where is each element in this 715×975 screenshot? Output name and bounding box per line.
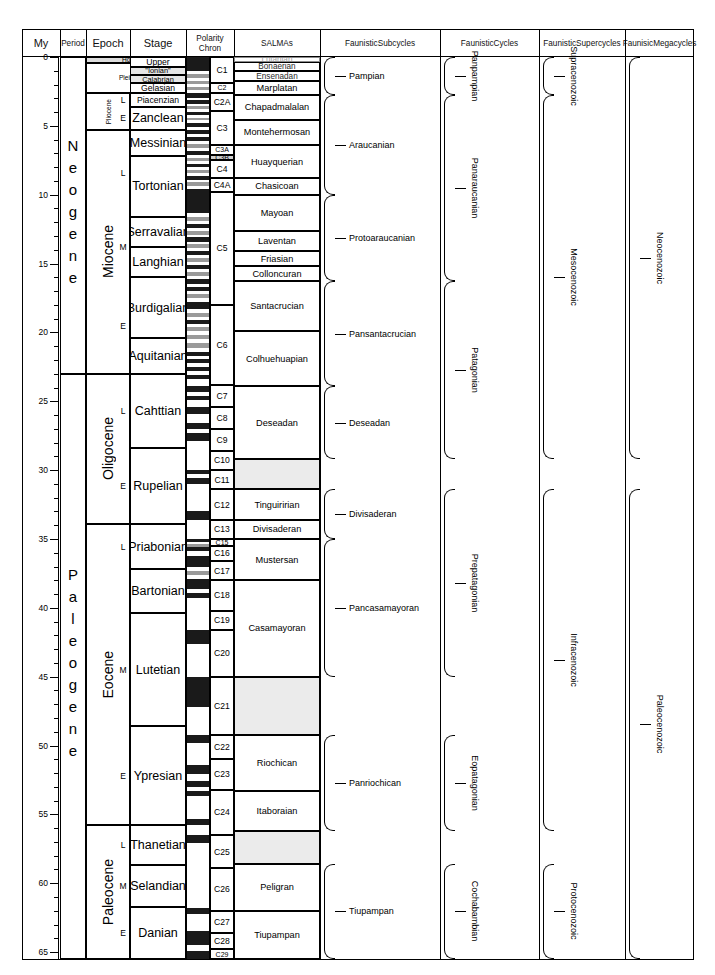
header-my: My [22, 30, 60, 57]
subepoch-1: E [116, 107, 130, 130]
subcycle-brace-6 [324, 539, 335, 677]
axis-tick-label-20: 20 [39, 327, 48, 337]
polarity-stripe-115 [187, 579, 209, 589]
chron-cell-26: C24 [210, 790, 234, 835]
polarity-stripe-96 [187, 456, 209, 470]
polarity-stripe-142 [187, 951, 209, 959]
salma-cell-17: Mustersan [234, 539, 320, 580]
supercycle-label-3: Protocenozoic [569, 883, 579, 940]
subcycle-brace-leg-8 [335, 911, 346, 912]
polarity-stripe-136 [187, 843, 209, 868]
megacycle-label-0: Neocenozoic [655, 232, 665, 284]
axis-tick-label-25: 25 [39, 396, 48, 406]
axis-tick-53 [54, 787, 59, 788]
stage-cell-18: Thanetian [130, 825, 186, 865]
cycle-label-1: Panaraucanian [470, 158, 480, 219]
polarity-stripe-84 [187, 379, 209, 386]
chron-cell-6: C4 [210, 160, 234, 178]
supercycle-brace-leg-0 [554, 76, 565, 77]
axis-tick-11 [54, 208, 59, 209]
salma-cell-2: Ensenadan [234, 71, 320, 81]
salma-cell-19: Riochican [234, 735, 320, 791]
megacycle-brace-leg-0 [640, 258, 651, 259]
subepoch-9: E [116, 726, 130, 825]
cycle-brace-0 [444, 57, 455, 95]
cycle-brace-5 [444, 864, 455, 959]
axis-tick-61 [54, 897, 59, 898]
axis-tick-39 [54, 594, 59, 595]
axis-tick-51 [54, 759, 59, 760]
axis-tick-label-35: 35 [39, 534, 48, 544]
chron-cell-20: C18 [210, 580, 234, 610]
polarity-stripe-118 [187, 598, 209, 610]
cycle-brace-2 [444, 281, 455, 459]
subcycle-brace-7 [324, 735, 335, 831]
axis-tick-14 [54, 250, 59, 251]
polarity-stripe-65 [187, 302, 209, 309]
polarity-stripe-122 [187, 677, 209, 707]
supercycle-brace-leg-3 [554, 911, 565, 912]
subcycle-brace-leg-5 [335, 514, 346, 515]
polarity-stripe-101 [187, 489, 209, 511]
salma-gap-2 [234, 831, 320, 864]
axis-tick-56 [54, 828, 59, 829]
chron-cell-18: C16 [210, 546, 234, 561]
axis-tick-46 [54, 690, 59, 691]
cycle-label-4: Eopatagonian [470, 755, 480, 811]
subepoch-2: L [116, 130, 130, 217]
megacycle-brace-1 [629, 489, 640, 959]
axis-tick-55 [50, 814, 59, 815]
salma-cell-10: Friasian [234, 251, 320, 266]
header-faunistic-subcycles: FaunisticSubcycles [320, 30, 440, 57]
stage-cell-8: Serravalian [130, 217, 186, 247]
subepoch-8: M [116, 613, 130, 726]
header-divider-8 [625, 30, 626, 57]
axis-tick-10 [50, 195, 59, 196]
polarity-stripe-89 [187, 407, 209, 414]
axis-tick-52 [54, 773, 59, 774]
supercycle-brace-0 [543, 57, 554, 95]
chron-cell-2: C2A [210, 93, 234, 111]
chron-cell-12: C9 [210, 429, 234, 451]
chron-cell-29: C27 [210, 911, 234, 933]
axis-tick-37 [54, 567, 59, 568]
polarity-stripe-121 [187, 644, 209, 677]
polarity-stripe-128 [187, 774, 209, 781]
axis-tick-4 [54, 112, 59, 113]
stage-cell-9: Langhian [130, 247, 186, 277]
stage-cell-13: Rupelian [130, 448, 186, 524]
cycle-label-3: Prepatagonian [470, 554, 480, 613]
cycle-brace-leg-5 [455, 911, 466, 912]
supercycle-brace-leg-2 [554, 660, 565, 661]
axis-tick-35 [50, 539, 59, 540]
axis-tick-6 [54, 140, 59, 141]
supercycle-brace-leg-1 [554, 277, 565, 278]
polarity-stripe-0 [187, 57, 209, 71]
subcycle-brace-leg-1 [335, 145, 346, 146]
axis-tick-25 [50, 401, 59, 402]
salma-cell-9: Laventan [234, 231, 320, 252]
axis-tick-41 [54, 622, 59, 623]
polarity-stripe-134 [187, 825, 209, 835]
stage-cell-1: "Ionian" [130, 67, 186, 75]
salma-cell-20: Itaboraian [234, 791, 320, 831]
subepoch-3: M [116, 217, 130, 278]
subepoch-11: M [116, 865, 130, 906]
supercycle-brace-3 [543, 864, 554, 959]
axis-tick-60 [50, 883, 59, 884]
subcycle-brace-0 [324, 57, 335, 95]
axis-tick-8 [54, 167, 59, 168]
salma-cell-22: Tiupampan [234, 911, 320, 959]
axis-tick-3 [54, 98, 59, 99]
axis-tick-33 [54, 511, 59, 512]
chron-cell-14: C11 [210, 470, 234, 489]
subcycle-brace-leg-4 [335, 423, 346, 424]
axis-tick-label-0: 0 [43, 52, 48, 62]
polarity-stripe-139 [187, 914, 209, 932]
header-salmas: SALMAs [234, 30, 320, 57]
polarity-stripe-120 [187, 630, 209, 644]
cycle-label-0: Panpampian [470, 51, 480, 102]
chron-cell-16: C13 [210, 520, 234, 539]
axis-tick-label-65: 65 [39, 947, 48, 957]
header-stage: Stage [130, 30, 186, 57]
